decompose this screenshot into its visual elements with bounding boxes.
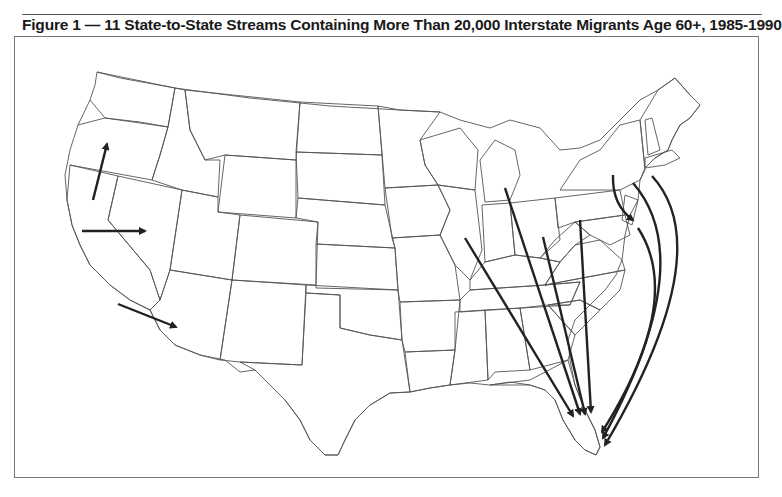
- state-colorado: [232, 215, 318, 285]
- arrow-ca-az: [118, 304, 176, 327]
- state-oregon: [70, 118, 168, 180]
- state-idaho: [152, 88, 220, 197]
- arrow-ca-or: [93, 144, 107, 200]
- state-kansas: [316, 244, 398, 290]
- state-vermont-nh: [645, 118, 660, 155]
- state-utah: [170, 190, 240, 280]
- arrow-oh-fl: [543, 237, 585, 414]
- state-wyoming: [218, 155, 296, 218]
- arrow-mi-fl: [505, 188, 580, 414]
- state-tennessee: [460, 282, 580, 312]
- state-nevada: [108, 176, 182, 300]
- state-minnesota: [378, 106, 440, 188]
- migration-streams: [82, 144, 677, 445]
- state-arizona: [150, 270, 232, 360]
- state-ma-ct-ri: [645, 150, 680, 168]
- state-nebraska: [296, 198, 395, 248]
- arrow-ny-fl: [603, 183, 660, 438]
- state-new-york: [560, 120, 645, 190]
- state-new-mexico: [220, 280, 306, 365]
- state-south-dakota: [296, 152, 385, 205]
- state-iowa: [385, 185, 450, 238]
- state-texas: [240, 293, 410, 455]
- state-outlines: [65, 72, 700, 455]
- state-california: [67, 165, 160, 310]
- arrow-pa-fl: [580, 220, 591, 412]
- state-virginia: [545, 240, 625, 285]
- state-oklahoma: [306, 285, 402, 340]
- state-montana: [185, 90, 300, 160]
- state-michigan: [480, 140, 520, 202]
- arrow-il-fl: [465, 238, 573, 416]
- state-missouri: [392, 235, 460, 302]
- state-louisiana: [405, 350, 455, 392]
- state-arkansas: [400, 300, 460, 352]
- state-indiana: [482, 203, 515, 262]
- state-wisconsin: [420, 128, 478, 190]
- state-north-dakota: [296, 102, 382, 155]
- state-illinois: [438, 185, 482, 280]
- state-alabama: [485, 308, 530, 380]
